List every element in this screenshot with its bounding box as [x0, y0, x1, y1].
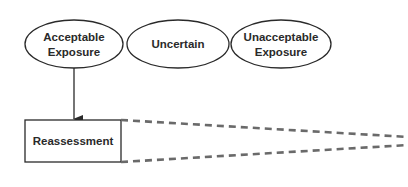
- node-uncertain: Uncertain: [127, 20, 229, 68]
- node-reassessment: Reassessment: [25, 120, 121, 162]
- ellipse-shape: [25, 20, 123, 68]
- dashed-line-top: [121, 120, 408, 137]
- node-label-line1: Unacceptable: [244, 31, 319, 43]
- node-acceptable-exposure: Acceptable Exposure: [25, 20, 123, 68]
- ellipse-shape: [231, 20, 331, 68]
- node-label-line1: Reassessment: [33, 135, 114, 147]
- node-label-line2: Exposure: [255, 46, 307, 58]
- node-label-line2: Exposure: [48, 46, 100, 58]
- node-label-line1: Acceptable: [43, 31, 104, 43]
- node-label-line1: Uncertain: [151, 38, 204, 50]
- node-unacceptable-exposure: Unacceptable Exposure: [231, 20, 331, 68]
- dashed-line-bottom: [121, 145, 408, 162]
- diagram-canvas: Acceptable Exposure Uncertain Unacceptab…: [0, 0, 408, 187]
